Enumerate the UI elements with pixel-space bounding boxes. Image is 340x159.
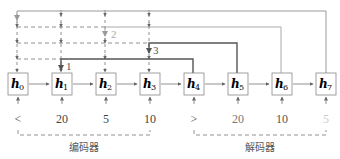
input-token-4: > — [191, 112, 198, 126]
input-token-2: 5 — [103, 112, 109, 126]
input-token-1: 20 — [56, 112, 68, 126]
node-h0: h0 — [8, 73, 28, 95]
svg-text:6: 6 — [283, 83, 288, 92]
svg-text:0: 0 — [19, 83, 24, 92]
svg-text:1: 1 — [63, 83, 68, 92]
step-label-1: 1 — [66, 60, 72, 72]
svg-text:3: 3 — [151, 83, 156, 92]
svg-text:7: 7 — [327, 83, 332, 92]
input-token-0: < — [15, 112, 22, 126]
input-token-5: 20 — [232, 112, 244, 126]
decoder-label: 解码器 — [245, 141, 275, 153]
feedback-line-h7 — [17, 11, 326, 73]
input-token-6: 10 — [276, 112, 288, 126]
dashed-rows — [17, 27, 149, 59]
feedback-line-h4 — [61, 59, 193, 73]
node-h5: h5 — [228, 73, 248, 95]
svg-text:4: 4 — [195, 83, 200, 92]
input-token-7: 5 — [323, 112, 329, 126]
svg-text:2: 2 — [107, 83, 112, 92]
seq2seq-pointer-diagram: 1 2 3 h0 h1 h2 h3 h4 h5 h6 h7 — [0, 0, 340, 159]
node-h6: h6 — [272, 73, 292, 95]
node-h2: h2 — [96, 73, 116, 95]
encoder-bracket — [18, 130, 150, 135]
diagram-canvas: 1 2 3 h0 h1 h2 h3 h4 h5 h6 h7 — [0, 0, 340, 159]
node-h3: h3 — [140, 73, 160, 95]
encoder-label: 编码器 — [69, 141, 99, 153]
input-token-3: 10 — [144, 112, 156, 126]
node-h4: h4 — [184, 73, 204, 95]
decoder-bracket — [194, 130, 326, 135]
svg-text:5: 5 — [239, 83, 244, 92]
node-h7: h7 — [316, 73, 336, 95]
node-h1: h1 — [52, 73, 72, 95]
input-arrows — [18, 97, 326, 104]
step-label-2: 2 — [111, 28, 117, 40]
column-arrowheads — [17, 10, 149, 59]
step-label-3: 3 — [153, 44, 159, 56]
